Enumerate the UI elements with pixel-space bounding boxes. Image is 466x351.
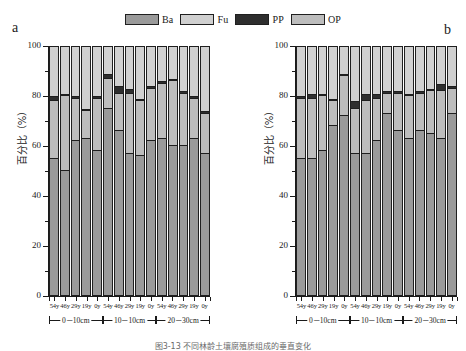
x-tick-b-3 [334,297,335,301]
bar-segment-op-b [404,96,414,139]
x-tick-a-8 [140,297,141,301]
y-tick-minor-30-a [45,221,48,222]
bar-segment-op-a [81,111,91,139]
bar-segment-fu-a [157,46,167,81]
bar-segment-op-a [157,84,167,139]
bar-segment-fu-b [361,46,371,94]
bar-a-0y-4 [92,46,102,296]
bar-b-19y-13 [436,46,446,296]
bar-b-29y-7 [372,46,382,296]
x-tick-edge-a-0 [49,297,50,301]
y-axis-label-a: 百分比（%） [14,91,29,181]
figure-caption: 图3-13 不同林龄土壤腐殖质组成的垂直变化 [0,340,466,351]
x-tick-label-a-11: 46y [168,302,177,309]
y-tick-label-b: 60 [279,140,288,150]
x-tick-edge-a-15 [210,297,211,301]
bar-segment-fu-b [415,46,425,91]
bar-segment-op-a [125,94,135,154]
bar-segment-op-b [382,94,392,114]
bar-b-46y-6 [361,46,371,296]
bar-a-19y-13 [189,46,199,296]
plot-area-b [296,46,457,296]
x-tick-a-3 [87,297,88,301]
bar-segment-op-a [49,101,59,159]
y-tick-40-b: 40 [290,196,295,197]
y-tick-minor-30-b [292,221,295,222]
chart-panel-b: 百分比（%） 020406080100 54y46y29y19y0y54y46y… [259,46,459,303]
x-tick-label-b-4: 0y [341,302,347,309]
x-tick-a-11 [172,297,173,301]
bar-a-46y-1 [60,46,70,296]
bar-segment-op-a [114,94,124,132]
x-tick-label-b-13: 19y [436,302,445,309]
x-tick-a-9 [151,297,152,301]
y-tick-minor-50-b [292,171,295,172]
y-tick-label-a: 40 [32,190,41,200]
bar-segment-ba-a [157,139,167,297]
legend-swatch-pp [235,14,269,25]
x-tick-label-a-4: 0y [94,302,100,309]
bar-segment-pp-a [114,86,124,94]
bar-segment-ba-a [179,146,189,296]
x-tick-label-b-10: 54y [404,302,413,309]
bar-segment-fu-b [382,46,392,91]
bar-segment-fu-a [189,46,199,96]
bar-segment-ba-a [71,141,81,296]
x-tick-label-a-8: 19y [135,302,144,309]
x-tick-a-0 [54,297,55,301]
bar-a-54y-10 [157,46,167,296]
bar-b-46y-1 [307,46,317,296]
y-tick-label-a: 100 [28,40,42,50]
legend-swatch-op [291,14,325,25]
y-tick-40-a: 40 [43,196,48,197]
y-tick-label-a: 80 [32,90,41,100]
x-tick-b-13 [441,297,442,301]
bar-a-19y-8 [135,46,145,296]
y-tick-label-a: 0 [37,290,42,300]
bar-segment-fu-b [339,46,349,74]
bar-segment-ba-b [328,126,338,296]
bar-segment-op-a [146,89,156,142]
plot-wrapper-b: 百分比（%） 020406080100 54y46y29y19y0y54y46y… [259,46,459,303]
x-tick-label-a-2: 29y [71,302,80,309]
bar-segment-fu-a [81,46,91,109]
bar-segment-ba-a [125,154,135,297]
bar-segment-ba-b [436,139,446,297]
bar-segment-fu-b [404,46,414,94]
bar-segment-fu-a [168,46,178,79]
x-tick-b-14 [452,297,453,301]
x-tick-label-b-9: 0y [395,302,401,309]
y-tick-60-a: 60 [43,146,48,147]
x-tick-label-a-3: 19y [82,302,91,309]
x-tick-edge-b-0 [296,297,297,301]
bar-segment-op-b [372,99,382,142]
x-tick-b-1 [312,297,313,301]
bar-segment-ba-b [415,131,425,296]
bar-segment-fu-b [296,46,306,96]
bar-segment-pp-b [436,84,446,92]
x-tick-label-a-6: 46y [114,302,123,309]
bar-b-54y-0 [296,46,306,296]
y-tick-minor-90-a [45,71,48,72]
bar-a-29y-12 [179,46,189,296]
x-tick-a-12 [183,297,184,301]
bar-segment-fu-b [393,46,403,91]
bar-segment-fu-a [179,46,189,91]
bar-a-54y-5 [103,46,113,296]
plot-wrapper-a: 百分比（%） 020406080100 54y46y29y19y0y54y46y… [12,46,212,303]
bar-b-0y-14 [447,46,457,296]
x-tick-label-b-14: 0y [448,302,454,309]
legend-entry-ba: Ba [125,14,174,25]
bar-segment-op-b [328,101,338,126]
bar-segment-op-b [307,99,317,159]
bar-segment-ba-b [318,151,328,296]
bar-b-29y-2 [318,46,328,296]
x-tick-a-4 [97,297,98,301]
bar-segment-fu-b [436,46,446,84]
bar-segment-op-a [71,99,81,142]
bar-segment-fu-b [328,46,338,99]
bar-segment-ba-a [200,154,210,297]
bar-b-19y-3 [328,46,338,296]
y-tick-minor-70-a [45,121,48,122]
chart-legend: BaFuPPOP [0,14,466,25]
